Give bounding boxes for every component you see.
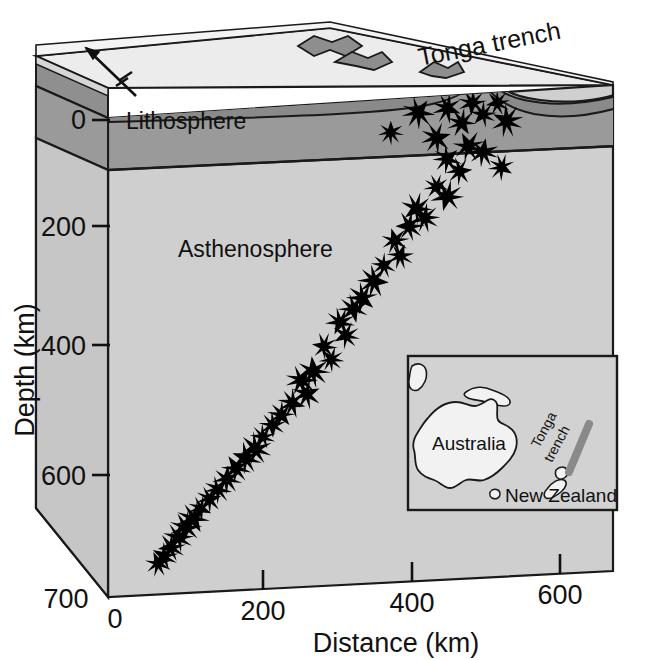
- figure-svg: 0 200 400 600 700 Depth (km) 0 200 400 6…: [0, 0, 649, 660]
- distance-axis-label: Distance (km): [313, 628, 480, 658]
- distance-tick-label-600: 600: [537, 580, 582, 610]
- inset-australia-label: Australia: [432, 433, 506, 454]
- depth-axis-label: Depth (km): [10, 303, 40, 437]
- depth-tick-label-200: 200: [41, 212, 86, 242]
- inset-map[interactable]: Tonga trench Australia New Zealand: [408, 356, 617, 510]
- depth-tick-label-0: 0: [71, 105, 86, 135]
- distance-tick-label-400: 400: [389, 588, 434, 618]
- distance-tick-label-200: 200: [240, 596, 285, 626]
- asthenosphere-label: Asthenosphere: [178, 236, 333, 262]
- inset-new-zealand-label: New Zealand: [505, 485, 617, 506]
- lithosphere-label: Lithosphere: [126, 108, 246, 134]
- inset-tasmania: [490, 489, 500, 499]
- distance-tick-label-0: 0: [107, 604, 122, 634]
- depth-tick-label-700: 700: [43, 584, 88, 614]
- tonga-subduction-figure: 0 200 400 600 700 Depth (km) 0 200 400 6…: [0, 0, 649, 660]
- depth-tick-label-600: 600: [41, 461, 86, 491]
- depth-tick-label-400: 400: [41, 331, 86, 361]
